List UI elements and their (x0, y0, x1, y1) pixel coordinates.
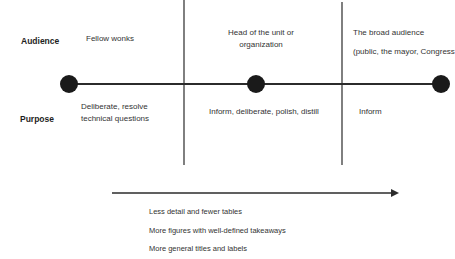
trend-item: More general titles and labels (149, 240, 286, 259)
audience-text: The broad audience (353, 27, 455, 39)
audience-col-3: The broad audience (public, the mayor, C… (353, 27, 455, 58)
purpose-text: Inform, deliberate, polish, distill (209, 106, 319, 118)
purpose-col-1: Deliberate, resolve technical questions (81, 101, 149, 125)
row-label-audience: Audience (21, 36, 59, 46)
node-right (432, 75, 450, 93)
trend-arrow-icon (112, 189, 399, 197)
purpose-col-2: Inform, deliberate, polish, distill (209, 106, 319, 118)
purpose-text: Inform (359, 106, 382, 118)
node-middle (247, 75, 265, 93)
purpose-text: Deliberate, resolve (81, 101, 149, 113)
audience-text: (public, the mayor, Congress (353, 46, 455, 58)
audience-col-1: Fellow wonks (86, 33, 134, 45)
trend-item: More figures with well-defined takeaways (149, 222, 286, 241)
purpose-col-3: Inform (359, 106, 382, 118)
purpose-text: technical questions (81, 113, 149, 125)
row-label-purpose: Purpose (20, 114, 54, 124)
trend-list: Less detail and fewer tables More figure… (149, 203, 286, 259)
audience-text: Fellow wonks (86, 33, 134, 45)
audience-text: Head of the unit or (196, 27, 326, 39)
trend-item: Less detail and fewer tables (149, 203, 286, 222)
node-left (60, 75, 78, 93)
audience-col-2: Head of the unit or organization (196, 27, 326, 51)
audience-text: organization (196, 39, 326, 51)
